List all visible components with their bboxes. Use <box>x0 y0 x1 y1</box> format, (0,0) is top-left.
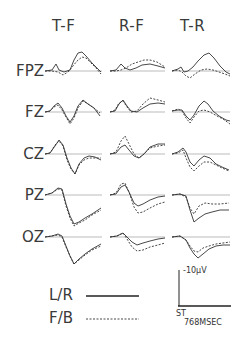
dashed-traces-f-b <box>45 57 230 264</box>
erp-waveform-grid <box>0 0 244 345</box>
legend-label-f-b: F/B <box>49 309 73 327</box>
scale-amplitude-label: -10µV <box>183 266 207 275</box>
scale-stimulus-label: ST <box>176 309 186 318</box>
solid-traces-l-r <box>45 52 230 264</box>
scale-time-label: 768MSEC <box>184 318 222 327</box>
legend-label-l-r: L/R <box>49 286 73 304</box>
